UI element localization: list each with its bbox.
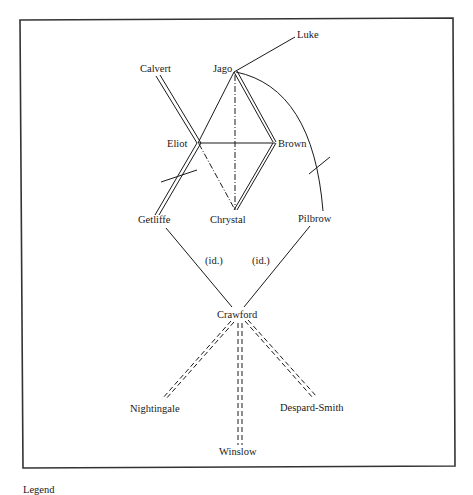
- node-chrystal: Chrystal: [210, 214, 246, 225]
- edge-eliot-chrystal: [199, 144, 234, 208]
- diagram-frame: [20, 18, 455, 468]
- edge-getliffe-crawford: [166, 228, 232, 307]
- node-getliffe: Getliffe: [138, 214, 171, 225]
- node-calvert: Calvert: [140, 63, 171, 74]
- node-eliot: Eliot: [167, 138, 187, 149]
- node-winslow: Winslow: [219, 446, 257, 457]
- edge-crawford-winslow: [238, 323, 242, 445]
- edge-label-getliffe-crawford: (id.): [205, 255, 223, 267]
- legend-label: Legend: [23, 484, 55, 495]
- edge-label-pilbrow-crawford: (id.): [252, 255, 270, 267]
- edge-jago-luke: [234, 37, 295, 72]
- edge-crawford-despard-smith: [245, 320, 317, 398]
- relationship-diagram: Luke Calvert Jago Eliot Brown Getliffe C…: [0, 0, 473, 495]
- node-brown: Brown: [278, 138, 307, 149]
- node-jago: Jago: [213, 63, 232, 74]
- edge-jago-eliot: [198, 72, 234, 143]
- edge-pilbrow-crawford: [244, 226, 310, 307]
- node-crawford: Crawford: [217, 309, 258, 320]
- edge-brown-chrystal: [234, 143, 276, 210]
- node-pilbrow: Pilbrow: [298, 213, 332, 224]
- node-despard-smith: Despard-Smith: [280, 402, 344, 413]
- edge-jago-brown: [234, 71, 276, 142]
- cross-tick: [309, 157, 330, 174]
- node-luke: Luke: [297, 29, 319, 40]
- node-nightingale: Nightingale: [130, 403, 180, 414]
- edge-crawford-nightingale: [162, 321, 234, 400]
